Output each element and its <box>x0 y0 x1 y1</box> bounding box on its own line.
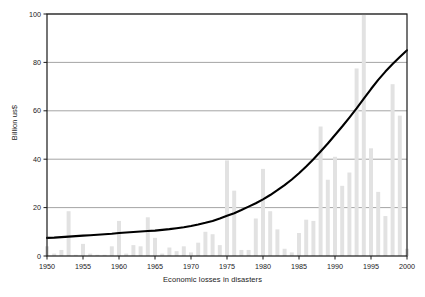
svg-text:1990: 1990 <box>327 262 343 271</box>
svg-text:1970: 1970 <box>183 262 199 271</box>
svg-text:80: 80 <box>33 58 41 67</box>
x-axis-title: Economic losses in disasters <box>0 275 425 284</box>
svg-text:0: 0 <box>37 252 41 261</box>
x-axis: 1950195519601965197019751980198519901995… <box>39 256 415 271</box>
svg-text:1950: 1950 <box>39 262 55 271</box>
svg-text:20: 20 <box>33 203 41 212</box>
chart-figure: 020406080100 195019551960196519701975198… <box>0 0 425 297</box>
svg-text:1995: 1995 <box>363 262 379 271</box>
svg-text:1975: 1975 <box>219 262 235 271</box>
svg-text:2000: 2000 <box>399 262 415 271</box>
y-axis-title: Billion us$ <box>10 83 19 163</box>
svg-text:1960: 1960 <box>111 262 127 271</box>
svg-text:1985: 1985 <box>291 262 307 271</box>
y-axis: 020406080100 <box>29 10 47 261</box>
svg-text:60: 60 <box>33 106 41 115</box>
chart-canvas: 020406080100 195019551960196519701975198… <box>0 0 425 297</box>
svg-text:1955: 1955 <box>75 262 91 271</box>
svg-text:1980: 1980 <box>255 262 271 271</box>
svg-text:100: 100 <box>29 10 41 19</box>
svg-text:40: 40 <box>33 155 41 164</box>
svg-text:1965: 1965 <box>147 262 163 271</box>
